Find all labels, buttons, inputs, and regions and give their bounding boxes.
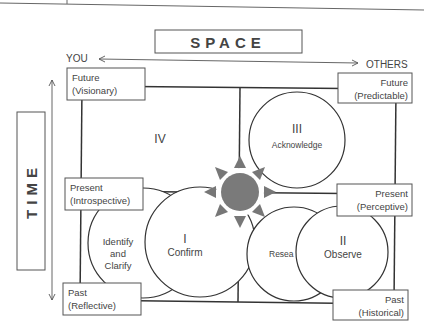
space-title-box: SPACE <box>155 30 302 53</box>
observe-circle: II Observe <box>296 206 388 298</box>
svg-text:(Historical): (Historical) <box>359 307 404 318</box>
space-time-diagram: SPACE YOU OTHERS TIME IV III Acknowledge <box>0 0 432 333</box>
svg-text:Past: Past <box>68 287 87 298</box>
svg-text:Future: Future <box>72 72 99 83</box>
acknowledge-circle: III Acknowledge <box>249 92 345 188</box>
svg-text:(Predictable): (Predictable) <box>354 90 408 101</box>
you-label: YOU <box>66 53 88 64</box>
past-reflective-box: Past (Reflective) <box>63 283 141 315</box>
present-perceptive-box: Present (Perceptive) <box>337 184 412 216</box>
top-rule <box>0 3 424 10</box>
quadrant-i-numeral: I <box>183 232 186 246</box>
svg-text:Present: Present <box>70 182 103 193</box>
svg-text:(Visionary): (Visionary) <box>72 85 117 96</box>
svg-text:and: and <box>110 248 126 259</box>
quadrant-iii-numeral: III <box>292 122 302 136</box>
svg-text:Past: Past <box>385 294 404 305</box>
future-visionary-box: Future (Visionary) <box>67 68 145 100</box>
past-historical-box: Past (Historical) <box>333 290 408 320</box>
others-label: OTHERS <box>366 59 408 70</box>
future-predictable-box: Future (Predictable) <box>338 73 412 103</box>
time-arrow <box>49 80 55 300</box>
svg-text:Clarify: Clarify <box>105 260 132 271</box>
space-arrow <box>99 56 358 66</box>
time-title: TIME <box>23 163 40 219</box>
svg-text:(Perceptive): (Perceptive) <box>357 201 408 212</box>
svg-text:(Reflective): (Reflective) <box>68 300 116 311</box>
svg-text:Future: Future <box>381 77 408 88</box>
quadrant-ii-numeral: II <box>340 234 347 248</box>
confirm-label: Confirm <box>167 247 202 258</box>
observe-label: Observe <box>324 249 362 260</box>
time-title-box: TIME <box>17 112 45 270</box>
space-title: SPACE <box>190 34 266 51</box>
present-introspective-box: Present (Introspective) <box>65 178 143 210</box>
acknowledge-label: Acknowledge <box>272 140 323 150</box>
research-label: Resea <box>269 249 294 259</box>
svg-text:(Introspective): (Introspective) <box>70 195 130 206</box>
quadrant-iv-numeral: IV <box>154 132 165 146</box>
svg-text:Identify: Identify <box>103 236 134 247</box>
svg-text:Present: Present <box>375 188 408 199</box>
